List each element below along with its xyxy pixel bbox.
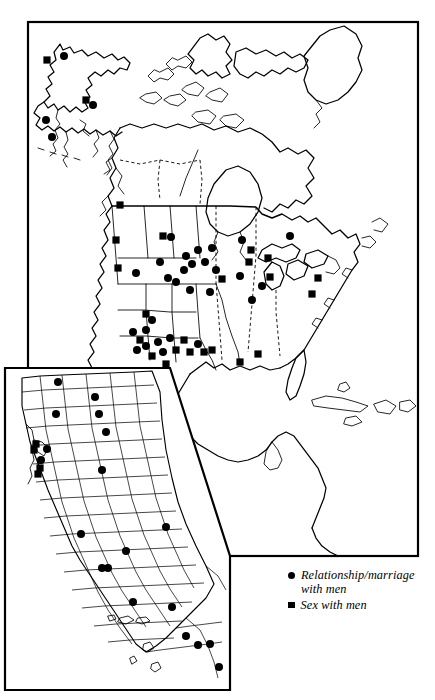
marker-circle bbox=[212, 266, 220, 274]
marker-square bbox=[245, 258, 252, 265]
marker-circle bbox=[194, 340, 202, 348]
marker-circle bbox=[194, 641, 202, 649]
marker-square bbox=[264, 254, 271, 261]
marker-square bbox=[30, 446, 37, 453]
marker-circle bbox=[194, 246, 202, 254]
marker-circle bbox=[156, 258, 164, 266]
marker-square bbox=[148, 352, 155, 359]
marker-square bbox=[114, 264, 121, 271]
marker-circle bbox=[162, 523, 170, 531]
marker-circle bbox=[48, 133, 56, 141]
marker-square bbox=[159, 232, 166, 239]
marker-square bbox=[34, 470, 41, 477]
legend-entry-sex: Sex with men bbox=[288, 598, 430, 612]
marker-circle bbox=[129, 328, 137, 336]
marker-square bbox=[116, 201, 123, 208]
marker-circle bbox=[148, 316, 156, 324]
marker-square bbox=[136, 336, 143, 343]
marker-square bbox=[82, 96, 89, 103]
marker-circle bbox=[142, 342, 150, 350]
marker-square bbox=[142, 310, 149, 317]
marker-square bbox=[43, 56, 50, 63]
marker-circle bbox=[236, 272, 244, 280]
marker-circle bbox=[52, 410, 60, 418]
marker-circle bbox=[43, 445, 51, 453]
marker-circle bbox=[206, 640, 214, 648]
marker-circle bbox=[238, 236, 246, 244]
square-marker-icon bbox=[288, 602, 295, 609]
marker-circle bbox=[248, 296, 256, 304]
marker-circle bbox=[89, 101, 97, 109]
marker-circle bbox=[37, 456, 45, 464]
marker-circle bbox=[258, 282, 266, 290]
marker-square bbox=[266, 273, 273, 280]
marker-square bbox=[247, 246, 254, 253]
marker-circle bbox=[154, 338, 162, 346]
marker-circle bbox=[188, 260, 196, 268]
legend-label-relationship: Relationship/marriage with men bbox=[301, 568, 414, 597]
marker-circle bbox=[208, 244, 216, 252]
marker-circle bbox=[122, 547, 130, 555]
marker-circle bbox=[206, 288, 214, 296]
marker-circle bbox=[104, 564, 112, 572]
marker-square bbox=[236, 358, 243, 365]
marker-circle bbox=[166, 334, 174, 342]
marker-circle bbox=[167, 233, 175, 241]
marker-circle bbox=[102, 428, 110, 436]
marker-circle bbox=[132, 269, 140, 277]
marker-circle bbox=[215, 663, 223, 671]
marker-circle bbox=[286, 232, 294, 240]
marker-circle bbox=[54, 378, 62, 386]
marker-square bbox=[208, 346, 215, 353]
marker-circle bbox=[60, 52, 68, 60]
marker-circle bbox=[95, 410, 103, 418]
marker-circle bbox=[142, 326, 150, 334]
marker-square bbox=[180, 336, 187, 343]
marker-circle bbox=[164, 274, 172, 282]
marker-circle bbox=[133, 346, 141, 354]
marker-square bbox=[112, 236, 119, 243]
marker-circle bbox=[159, 348, 167, 356]
marker-circle bbox=[180, 266, 188, 274]
legend-entry-relationship: Relationship/marriage with men bbox=[288, 568, 430, 597]
marker-circle bbox=[182, 632, 190, 640]
marker-circle bbox=[91, 393, 99, 401]
marker-circle bbox=[42, 116, 50, 124]
marker-square bbox=[308, 290, 315, 297]
marker-circle bbox=[172, 278, 180, 286]
marker-square bbox=[162, 360, 169, 367]
marker-circle bbox=[98, 466, 106, 474]
marker-circle bbox=[182, 252, 190, 260]
marker-circle bbox=[168, 603, 176, 611]
marker-square bbox=[314, 274, 321, 281]
marker-square bbox=[200, 348, 207, 355]
marker-square bbox=[254, 350, 261, 357]
marker-square bbox=[218, 275, 225, 282]
marker-circle bbox=[129, 598, 137, 606]
marker-square bbox=[186, 348, 193, 355]
marker-circle bbox=[201, 258, 209, 266]
circle-marker-icon bbox=[288, 572, 295, 579]
legend-label-sex: Sex with men bbox=[301, 598, 367, 612]
map-figure: Relationship/marriage with men Sex with … bbox=[0, 0, 435, 700]
marker-circle bbox=[186, 286, 194, 294]
marker-circle bbox=[77, 530, 85, 538]
marker-square bbox=[172, 346, 179, 353]
legend: Relationship/marriage with men Sex with … bbox=[288, 568, 430, 612]
